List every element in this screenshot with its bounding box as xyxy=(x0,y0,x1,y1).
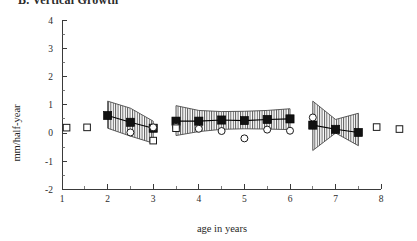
marker-mean-square xyxy=(218,116,226,124)
marker-open-circle xyxy=(195,125,202,132)
marker-open-circle xyxy=(287,127,294,134)
x-tick-label: 7 xyxy=(333,194,338,204)
x-tick-label: 4 xyxy=(196,194,201,204)
y-tick-label: 3 xyxy=(48,44,53,54)
y-axis-title: mm/half-year xyxy=(11,104,22,162)
marker-open-circle xyxy=(241,135,248,142)
tick-labels: -2-10123412345678 xyxy=(45,16,384,205)
y-tick-label: 2 xyxy=(48,72,53,82)
marker-mean-square xyxy=(195,117,203,125)
y-tick-label: 1 xyxy=(48,100,53,110)
marker-mean-square xyxy=(354,128,362,136)
marker-mean-square xyxy=(263,115,271,123)
marker-open-square xyxy=(373,124,380,131)
y-tick-label: 0 xyxy=(48,128,53,138)
plot-area: -2-10123412345678 mm/half-year age in ye… xyxy=(0,0,417,241)
marker-open-square xyxy=(173,125,180,132)
x-tick-label: 5 xyxy=(242,194,247,204)
marker-open-square xyxy=(150,137,157,144)
marker-open-circle xyxy=(150,124,157,131)
marker-mean-square xyxy=(286,115,294,123)
y-tick-label: -1 xyxy=(45,157,53,167)
marker-open-circle xyxy=(264,126,271,133)
y-tick-label: 4 xyxy=(48,16,53,26)
marker-mean-square xyxy=(332,125,340,133)
marker-mean-square xyxy=(104,111,112,119)
marker-mean-square xyxy=(240,116,248,124)
marker-mean-square xyxy=(126,118,134,126)
x-tick-label: 1 xyxy=(60,194,65,204)
chart-figure: B. Vertical Growth -2-10123412345678 mm/… xyxy=(0,0,417,241)
marker-open-circle xyxy=(127,129,134,136)
x-tick-label: 3 xyxy=(151,194,156,204)
marker-open-square xyxy=(84,124,91,131)
x-axis-title: age in years xyxy=(197,223,247,234)
marker-open-square xyxy=(63,124,70,131)
x-tick-label: 2 xyxy=(105,194,110,204)
x-tick-label: 8 xyxy=(379,194,384,204)
marker-mean-square xyxy=(309,121,317,129)
marker-open-circle xyxy=(309,114,316,121)
marker-open-square xyxy=(396,126,403,133)
x-tick-label: 6 xyxy=(288,194,293,204)
marker-open-circle xyxy=(218,128,225,135)
y-tick-label: -2 xyxy=(45,185,53,195)
